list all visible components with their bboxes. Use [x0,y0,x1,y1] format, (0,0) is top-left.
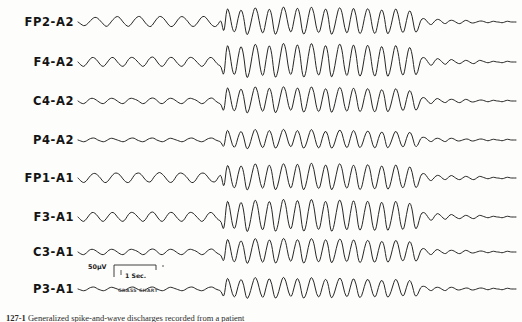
eeg-trace-fp1-a1 [78,163,516,190]
eeg-trace-svg [0,0,522,322]
eeg-trace-p4-a2 [78,129,516,148]
figure-caption-number: 127-1 [6,313,26,322]
chart-credit-label: GRASS CHART [118,288,158,293]
eeg-trace-fp2-a2 [78,7,516,35]
figure-caption-text: Generalized spike-and-wave discharges re… [28,313,245,322]
calibration-time-label: 1 Sec. [125,272,146,279]
eeg-trace-c4-a2 [78,87,516,113]
eeg-figure: FP2-A2F4-A2C4-A2P4-A2FP1-A1F3-A1C3-A1P3-… [0,0,522,322]
eeg-trace-f3-a1 [78,199,516,231]
calibration-marker: 50µV 1 Sec. [88,262,198,286]
eeg-trace-c3-a1 [78,238,516,263]
calibration-amplitude-label: 50µV [88,263,107,271]
eeg-trace-area [0,0,522,322]
figure-caption: 127-1 Generalized spike-and-wave dischar… [6,313,518,322]
eeg-trace-f4-a2 [78,43,516,77]
